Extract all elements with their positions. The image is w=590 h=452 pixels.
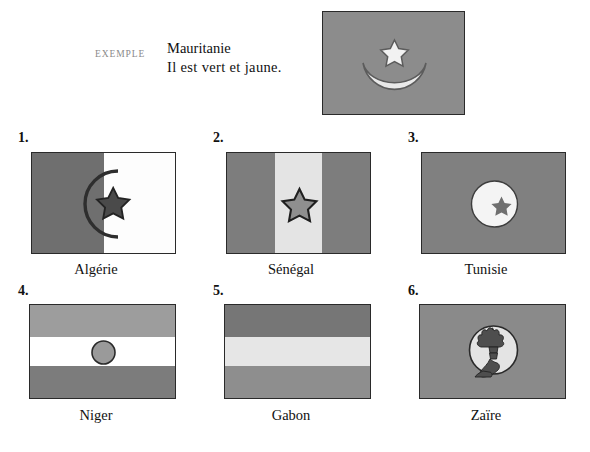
crescent-and-star-icon xyxy=(323,12,465,115)
item-number-6: 6. xyxy=(408,283,419,299)
tunisie-emblem xyxy=(422,153,565,253)
zaire-emblem xyxy=(420,305,565,398)
item-caption-4: Niger xyxy=(8,407,184,424)
circle-disc-icon xyxy=(30,305,176,399)
flag-niger xyxy=(29,304,176,399)
example-block: EXEMPLE Mauritanie Il est vert et jaune. xyxy=(0,0,590,126)
flag-algerie xyxy=(31,152,176,254)
example-country-name: Mauritanie xyxy=(167,39,282,58)
mauritanie-emblem xyxy=(323,12,464,114)
item-number-4: 4. xyxy=(18,283,29,299)
algerie-emblem xyxy=(32,153,175,253)
item-number-3: 3. xyxy=(408,130,419,146)
gabon-band-top xyxy=(225,305,370,337)
item-caption-2: Sénégal xyxy=(203,261,379,278)
item-number-1: 1. xyxy=(18,130,29,146)
item-caption-1: Algérie xyxy=(8,261,184,278)
example-sentence: Il est vert et jaune. xyxy=(167,58,282,77)
crescent-and-star-outline-icon xyxy=(32,153,176,254)
arm-holding-flaming-torch-icon xyxy=(420,305,566,399)
flag-gabon xyxy=(224,304,371,399)
gabon-band-middle xyxy=(225,337,370,367)
disc-with-crescent-and-star-icon xyxy=(422,153,566,254)
item-caption-5: Gabon xyxy=(203,407,379,424)
example-answer-text: Mauritanie Il est vert et jaune. xyxy=(167,39,282,77)
niger-emblem xyxy=(30,305,175,398)
five-pointed-star-icon xyxy=(227,153,371,254)
flag-senegal xyxy=(226,152,371,254)
senegal-emblem xyxy=(227,153,370,253)
item-number-2: 2. xyxy=(213,130,224,146)
item-caption-6: Zaïre xyxy=(398,407,574,424)
item-caption-3: Tunisie xyxy=(398,261,574,278)
flag-tunisie xyxy=(421,152,566,254)
example-label: EXEMPLE xyxy=(95,49,145,59)
flag-mauritanie xyxy=(322,11,465,115)
gabon-band-bottom xyxy=(225,366,370,398)
item-number-5: 5. xyxy=(213,283,224,299)
flag-zaire xyxy=(419,304,566,399)
